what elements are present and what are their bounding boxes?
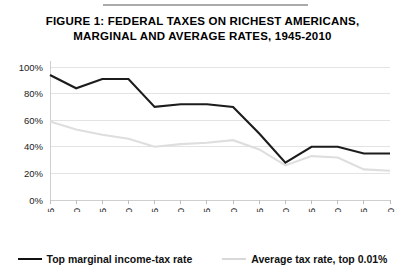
x-tick-label-1995: 1995 (306, 208, 317, 212)
line-chart: 0%20%40%60%80%100% 194519501955196019651… (0, 52, 405, 212)
x-tick-label-1960: 1960 (123, 208, 134, 212)
y-tick-label-20%: 20% (24, 168, 44, 179)
x-tick-label-1970: 1970 (175, 208, 186, 212)
legend-label-marginal: Top marginal income-tax rate (47, 253, 193, 265)
x-tick-label-1985: 1985 (254, 208, 265, 212)
x-tick-label-2005: 2005 (358, 208, 369, 212)
legend-label-average: Average tax rate, top 0.01% (251, 253, 387, 265)
figure-title-line-1: FIGURE 1: FEDERAL TAXES ON RICHEST AMERI… (0, 14, 405, 29)
legend-item-top-marginal-rate: Top marginal income-tax rate (18, 253, 193, 265)
x-axis-tick-marks (50, 200, 390, 204)
x-tick-label-1980: 1980 (228, 208, 239, 212)
y-axis-tick-labels: 0%20%40%60%80%100% (19, 62, 44, 206)
legend-item-average-tax-rate: Average tax rate, top 0.01% (222, 253, 387, 265)
series-line-top-marginal-rate (50, 75, 390, 163)
x-tick-label-2000: 2000 (332, 208, 343, 212)
y-tick-label-0%: 0% (29, 195, 43, 206)
x-tick-label-1965: 1965 (149, 208, 160, 212)
y-tick-label-80%: 80% (24, 88, 44, 99)
x-tick-label-1945: 1945 (45, 208, 56, 212)
chart-legend: Top marginal income-tax rate Average tax… (0, 248, 405, 270)
y-tick-label-60%: 60% (24, 115, 44, 126)
x-tick-label-1955: 1955 (97, 208, 108, 212)
figure-container: FIGURE 1: FEDERAL TAXES ON RICHEST AMERI… (0, 0, 405, 276)
gridlines (50, 61, 390, 200)
y-tick-label-100%: 100% (19, 62, 44, 73)
x-axis-tick-labels: 1945195019551960196519701975198019851990… (45, 208, 396, 212)
legend-swatch-icon-marginal (18, 258, 42, 260)
figure-title-line-2: MARGINAL AND AVERAGE RATES, 1945-2010 (0, 29, 405, 44)
x-tick-label-1950: 1950 (71, 208, 82, 212)
plot-area: 0%20%40%60%80%100% 194519501955196019651… (0, 52, 405, 212)
x-tick-label-1975: 1975 (201, 208, 212, 212)
y-tick-label-40%: 40% (24, 141, 44, 152)
x-tick-label-2010: 2010 (385, 208, 396, 212)
x-tick-label-1990: 1990 (280, 208, 291, 212)
title-divider-rule (103, 4, 308, 6)
figure-title: FIGURE 1: FEDERAL TAXES ON RICHEST AMERI… (0, 14, 405, 44)
legend-swatch-icon-average (222, 258, 246, 260)
